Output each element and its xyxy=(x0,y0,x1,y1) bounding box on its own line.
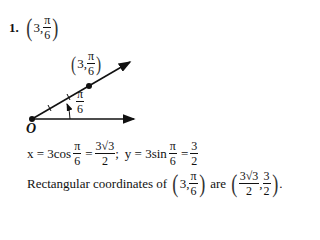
angle-label: π 6 xyxy=(76,88,84,115)
angle-arc xyxy=(67,104,70,119)
point-dot xyxy=(86,83,92,89)
origin-label: O xyxy=(26,121,36,137)
conclusion: Rectangular coordinates of ( 3, π 6 ) ar… xyxy=(27,170,282,197)
conversion-equations: x = 3cos π 6 = 3√3 2 ; y = 3sin π 6 = 3 … xyxy=(27,140,198,167)
point-label: ( 3, π 6 ) xyxy=(70,50,102,77)
